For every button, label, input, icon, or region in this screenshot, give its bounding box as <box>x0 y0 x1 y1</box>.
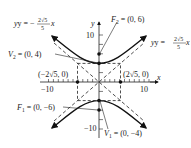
x-axis-label: x <box>156 73 161 82</box>
svg-text:yy =: yy = <box>150 38 166 47</box>
covertex-right-point <box>119 80 123 84</box>
asymptote-neg-label: yy = − 2√5 5 x <box>13 17 55 31</box>
y-tick-neg10: −10 <box>84 124 97 133</box>
focus-2-label: F2 = (0, 6) <box>110 15 145 25</box>
svg-text:yy = −: yy = − <box>13 19 35 28</box>
covertex-left-label: (−2√5, 0) <box>38 70 69 79</box>
svg-text:2√5: 2√5 <box>174 36 183 42</box>
y-axis-label: y <box>90 19 95 28</box>
svg-text:x: x <box>50 19 55 28</box>
vertex-1-leader <box>100 101 108 129</box>
svg-text:5: 5 <box>177 44 180 50</box>
svg-text:5: 5 <box>41 25 44 31</box>
vertex-1-label: V1 = (0, −4) <box>104 129 142 139</box>
covertex-right-label: (2√5, 0) <box>123 70 149 79</box>
svg-text:x: x <box>185 38 190 47</box>
focus-2-leader <box>100 22 117 53</box>
covertex-left-point <box>76 80 80 84</box>
asymptote-pos-label: yy = 2√5 5 x <box>150 36 190 50</box>
x-tick-neg10: −10 <box>41 85 54 94</box>
svg-text:2√5: 2√5 <box>38 17 47 23</box>
hyperbola-diagram: y x −10 10 10 −10 yy = − 2√5 5 x yy = 2√… <box>0 0 191 148</box>
vertex-2-label: V2 = (0, 4) <box>8 50 42 60</box>
x-tick-pos10: 10 <box>140 85 148 94</box>
y-tick-pos10: 10 <box>86 31 94 40</box>
focus-1-label: F1 = (0, −6) <box>16 103 55 113</box>
vertex-2-point <box>97 62 101 66</box>
axes <box>40 22 158 138</box>
